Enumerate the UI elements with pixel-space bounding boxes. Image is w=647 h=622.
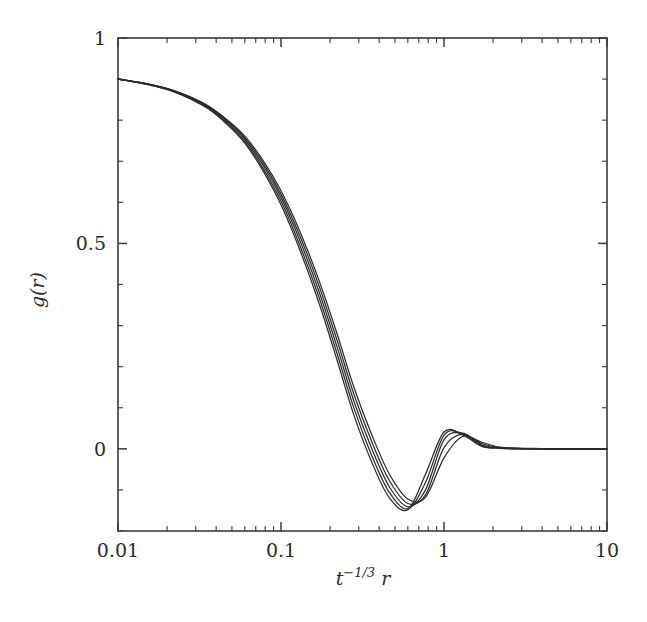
curve-t5 <box>118 79 607 511</box>
y-axis-label-text: g(r) <box>26 272 48 308</box>
scaling-plot: 0.010.1110 10.50 g(r) t−1/3 r <box>0 0 647 622</box>
y-axis-tick-labels: 10.50 <box>76 27 106 460</box>
x-axis-label-variable: r <box>381 567 392 589</box>
curve-t3 <box>118 79 607 507</box>
y-tick-label: 1 <box>94 27 106 49</box>
y-axis-label: g(r) <box>26 272 48 308</box>
svg-text:t−1/3 r: t−1/3 r <box>336 565 393 589</box>
axes-frame <box>118 38 607 531</box>
x-tick-label: 1 <box>438 539 450 561</box>
y-axis-ticks <box>118 38 607 531</box>
x-axis-ticks <box>118 38 607 531</box>
figure-container: 0.010.1110 10.50 g(r) t−1/3 r <box>0 0 647 622</box>
x-axis-tick-labels: 0.010.1110 <box>97 539 619 561</box>
data-curves <box>118 79 607 511</box>
curve-t4 <box>118 79 607 509</box>
y-tick-label: 0 <box>94 438 106 460</box>
x-tick-label: 0.1 <box>266 539 296 561</box>
svg-text:g(r): g(r) <box>26 272 48 308</box>
x-axis-label: t−1/3 r <box>336 565 393 589</box>
plot-frame <box>118 38 607 531</box>
x-axis-label-exponent: −1/3 <box>343 565 375 580</box>
x-tick-label: 10 <box>595 539 619 561</box>
y-tick-label: 0.5 <box>76 232 106 254</box>
x-tick-label: 0.01 <box>97 539 139 561</box>
